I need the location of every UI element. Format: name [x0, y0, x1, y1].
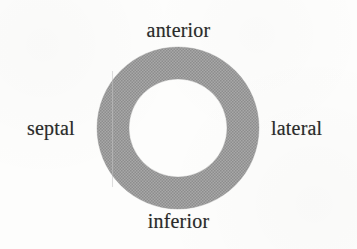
label-inferior: inferior	[0, 211, 357, 231]
figure-canvas: anterior septal lateral inferior	[0, 0, 357, 249]
myocardium-annulus	[97, 47, 259, 209]
annulus-body	[91, 41, 265, 215]
annulus-fill	[91, 41, 265, 215]
label-septal: septal	[27, 118, 75, 138]
label-anterior: anterior	[0, 20, 357, 40]
annulus-svg	[97, 47, 259, 209]
label-lateral: lateral	[271, 118, 322, 138]
